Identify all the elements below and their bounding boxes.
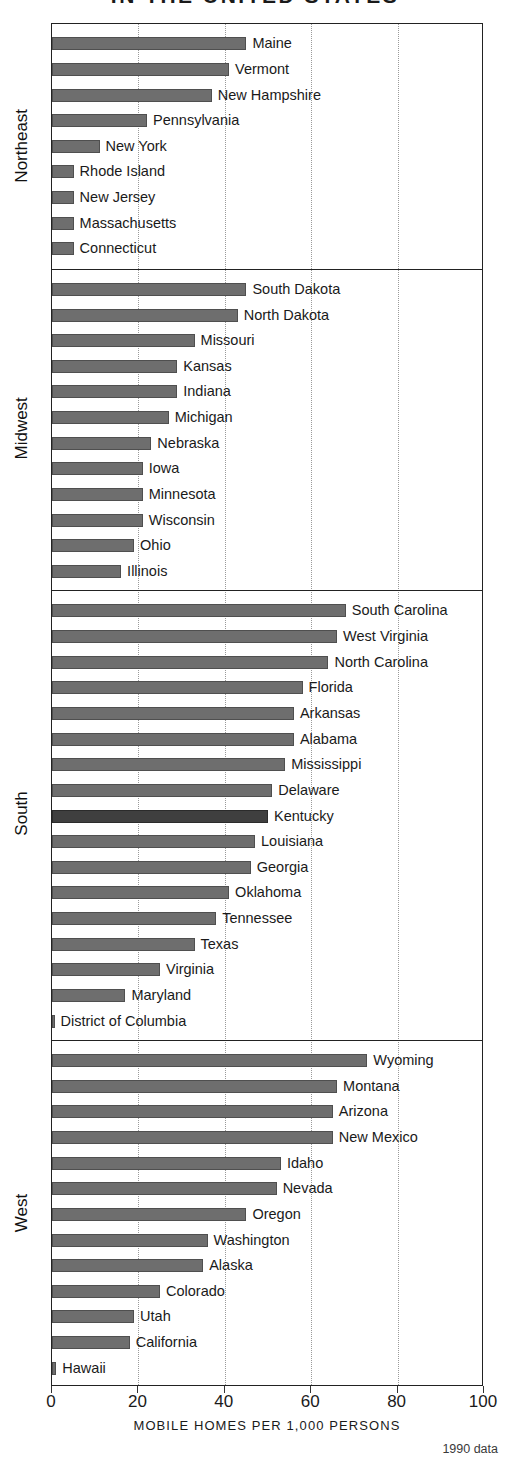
- bar-row[interactable]: California: [52, 1336, 484, 1349]
- bar-arkansas[interactable]: [52, 707, 294, 720]
- bar-alaska[interactable]: [52, 1259, 203, 1272]
- bar-row[interactable]: Oregon: [52, 1208, 484, 1221]
- bar-connecticut[interactable]: [52, 242, 74, 255]
- bar-row[interactable]: Illinois: [52, 565, 484, 578]
- bar-north-dakota[interactable]: [52, 309, 238, 322]
- bar-row[interactable]: Montana: [52, 1080, 484, 1093]
- bar-row[interactable]: South Dakota: [52, 283, 484, 296]
- bar-missouri[interactable]: [52, 334, 195, 347]
- bar-nebraska[interactable]: [52, 437, 151, 450]
- bar-row[interactable]: Indiana: [52, 385, 484, 398]
- bar-row[interactable]: Iowa: [52, 462, 484, 475]
- bar-alabama[interactable]: [52, 733, 294, 746]
- bar-row[interactable]: Alabama: [52, 733, 484, 746]
- bar-row[interactable]: Nevada: [52, 1182, 484, 1195]
- bar-row[interactable]: Mississippi: [52, 758, 484, 771]
- bar-new-mexico[interactable]: [52, 1131, 333, 1144]
- bar-row[interactable]: Pennsylvania: [52, 114, 484, 127]
- bar-wisconsin[interactable]: [52, 514, 143, 527]
- bar-row[interactable]: North Carolina: [52, 656, 484, 669]
- bar-rhode-island[interactable]: [52, 165, 74, 178]
- bar-row[interactable]: Kansas: [52, 360, 484, 373]
- bar-row[interactable]: Washington: [52, 1234, 484, 1247]
- bar-row[interactable]: Georgia: [52, 861, 484, 874]
- bar-california[interactable]: [52, 1336, 130, 1349]
- bar-indiana[interactable]: [52, 385, 177, 398]
- bar-row[interactable]: Wisconsin: [52, 514, 484, 527]
- bar-nevada[interactable]: [52, 1182, 277, 1195]
- bar-illinois[interactable]: [52, 565, 121, 578]
- bar-row[interactable]: Wyoming: [52, 1054, 484, 1067]
- bar-row[interactable]: Hawaii: [52, 1362, 484, 1375]
- bar-vermont[interactable]: [52, 63, 229, 76]
- bar-minnesota[interactable]: [52, 488, 143, 501]
- bar-new-jersey[interactable]: [52, 191, 74, 204]
- bar-row[interactable]: Michigan: [52, 411, 484, 424]
- bar-west-virginia[interactable]: [52, 630, 337, 643]
- bar-row[interactable]: Massachusetts: [52, 217, 484, 230]
- bar-row[interactable]: Missouri: [52, 334, 484, 347]
- bar-wyoming[interactable]: [52, 1054, 367, 1067]
- bar-louisiana[interactable]: [52, 835, 255, 848]
- bar-row[interactable]: Tennessee: [52, 912, 484, 925]
- bar-row[interactable]: Texas: [52, 938, 484, 951]
- bar-texas[interactable]: [52, 938, 195, 951]
- bar-washington[interactable]: [52, 1234, 208, 1247]
- bar-hawaii[interactable]: [52, 1362, 56, 1375]
- bar-south-dakota[interactable]: [52, 283, 246, 296]
- bar-delaware[interactable]: [52, 784, 272, 797]
- bar-row[interactable]: Ohio: [52, 539, 484, 552]
- bar-district-of-columbia[interactable]: [52, 1015, 55, 1028]
- bar-utah[interactable]: [52, 1310, 134, 1323]
- bar-mississippi[interactable]: [52, 758, 285, 771]
- bar-ohio[interactable]: [52, 539, 134, 552]
- bar-oregon[interactable]: [52, 1208, 246, 1221]
- bar-virginia[interactable]: [52, 963, 160, 976]
- bar-pennsylvania[interactable]: [52, 114, 147, 127]
- bar-kansas[interactable]: [52, 360, 177, 373]
- bar-row[interactable]: Colorado: [52, 1285, 484, 1298]
- bar-row[interactable]: Oklahoma: [52, 886, 484, 899]
- bar-row[interactable]: North Dakota: [52, 309, 484, 322]
- bar-colorado[interactable]: [52, 1285, 160, 1298]
- bar-row[interactable]: Virginia: [52, 963, 484, 976]
- bar-row[interactable]: Nebraska: [52, 437, 484, 450]
- bar-row[interactable]: Rhode Island: [52, 165, 484, 178]
- bar-oklahoma[interactable]: [52, 886, 229, 899]
- bar-maine[interactable]: [52, 37, 246, 50]
- bar-row[interactable]: Delaware: [52, 784, 484, 797]
- bar-row[interactable]: New Mexico: [52, 1131, 484, 1144]
- bar-tennessee[interactable]: [52, 912, 216, 925]
- bar-row[interactable]: Florida: [52, 681, 484, 694]
- bar-row[interactable]: Minnesota: [52, 488, 484, 501]
- bar-row[interactable]: West Virginia: [52, 630, 484, 643]
- bar-new-hampshire[interactable]: [52, 89, 212, 102]
- bar-florida[interactable]: [52, 681, 303, 694]
- bar-maryland[interactable]: [52, 989, 125, 1002]
- bar-arizona[interactable]: [52, 1105, 333, 1118]
- bar-row[interactable]: District of Columbia: [52, 1015, 484, 1028]
- bar-row[interactable]: Kentucky: [52, 810, 484, 823]
- bar-row[interactable]: New Jersey: [52, 191, 484, 204]
- bar-montana[interactable]: [52, 1080, 337, 1093]
- bar-idaho[interactable]: [52, 1157, 281, 1170]
- bar-row[interactable]: Alaska: [52, 1259, 484, 1272]
- bar-row[interactable]: Maine: [52, 37, 484, 50]
- bar-row[interactable]: Arizona: [52, 1105, 484, 1118]
- bar-row[interactable]: Vermont: [52, 63, 484, 76]
- bar-row[interactable]: New Hampshire: [52, 89, 484, 102]
- bar-row[interactable]: Arkansas: [52, 707, 484, 720]
- bar-massachusetts[interactable]: [52, 217, 74, 230]
- bar-michigan[interactable]: [52, 411, 169, 424]
- bar-iowa[interactable]: [52, 462, 143, 475]
- bar-row[interactable]: Idaho: [52, 1157, 484, 1170]
- bar-row[interactable]: Maryland: [52, 989, 484, 1002]
- bar-row[interactable]: South Carolina: [52, 604, 484, 617]
- bar-row[interactable]: Utah: [52, 1310, 484, 1323]
- bar-row[interactable]: Louisiana: [52, 835, 484, 848]
- bar-kentucky[interactable]: [52, 810, 268, 823]
- bar-georgia[interactable]: [52, 861, 251, 874]
- bar-row[interactable]: Connecticut: [52, 242, 484, 255]
- bar-north-carolina[interactable]: [52, 656, 328, 669]
- bar-row[interactable]: New York: [52, 140, 484, 153]
